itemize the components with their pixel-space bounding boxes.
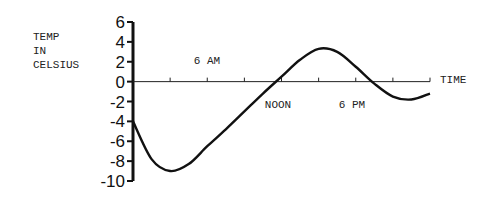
x-annotations: 6 AMNOON6 PM: [194, 55, 365, 111]
x-annotation-label: NOON: [265, 99, 291, 111]
y-tick-label: -4: [110, 112, 125, 131]
y-tick-label: -8: [110, 152, 125, 171]
y-tick-label: -2: [110, 93, 125, 112]
temperature-chart: 6420-2-4-6-8-10 6 AMNOON6 PM TIME: [0, 0, 494, 197]
y-tick-label: -10: [100, 172, 125, 191]
y-tick-label: 0: [116, 73, 125, 92]
x-annotation-label: 6 AM: [194, 55, 220, 67]
y-tick-label: 2: [116, 53, 125, 72]
x-axis-title: TIME: [440, 74, 467, 86]
x-annotation-label: 6 PM: [339, 99, 365, 111]
y-tick-label: 6: [116, 13, 125, 32]
y-axis: 6420-2-4-6-8-10: [100, 13, 133, 191]
y-tick-label: 4: [116, 33, 125, 52]
y-tick-label: -6: [110, 132, 125, 151]
